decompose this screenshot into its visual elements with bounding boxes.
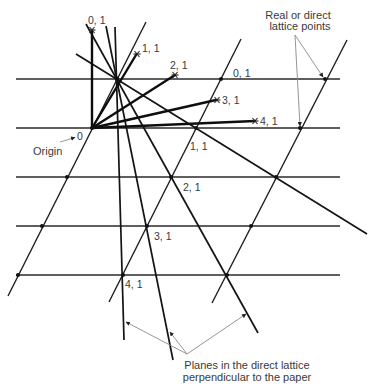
origin-symbol: 0 [77,130,83,142]
lattice-point [121,273,125,277]
lattice-point [145,224,149,228]
lattice-point [323,77,327,81]
star-icon [134,51,141,57]
plane-label-2-1: 2, 1 [183,181,201,193]
vector-2-1 [92,75,175,128]
reciprocal-label-1-1: 1, 1 [142,42,160,54]
planes-arrow-3 [187,314,246,354]
lattice-point [219,77,223,81]
plane-label-4-1: 4, 1 [125,278,143,290]
lattice-point [274,175,278,179]
pointer-arrows [60,35,323,354]
lattice-point [65,175,69,179]
real-lattice-arrow-1 [295,35,323,77]
lattice-point [249,224,253,228]
lattice-point [40,224,44,228]
planes-arrow-1 [126,322,187,354]
real-lattice-arrow-2 [295,35,300,126]
plane-label-1-1: 1, 1 [190,140,208,152]
reciprocal-lattice-diagram: 0, 1 1, 1 2, 1 3, 1 4, 1 0, 1 1, 1 2, 1 … [0,0,376,390]
planes-caption-line1: Planes in the direct lattice [184,359,309,371]
plane-label-0-1: 0, 1 [233,67,251,79]
star-icon [214,97,221,103]
lattice-point [225,273,229,277]
real-lattice-caption-line2: lattice points [269,20,331,32]
reciprocal-label-0-1: 0, 1 [88,14,106,26]
slanted-row-a [8,22,146,296]
reciprocal-label-3-1: 3, 1 [222,94,240,106]
plane-label-3-1: 3, 1 [154,230,172,242]
lattice-point [16,273,20,277]
lattice-point [115,77,120,82]
planes-arrow-2 [170,332,187,354]
lattice-point [90,126,94,130]
lattice-point [169,175,173,179]
origin-caption: Origin [33,145,62,157]
lattice-point [298,126,302,130]
reciprocal-label-2-1: 2, 1 [170,59,188,71]
planes-caption-line2: perpendicular to the paper [183,371,312,383]
origin-arrow [60,138,75,143]
lattice-point [194,126,198,130]
reciprocal-label-4-1: 4, 1 [260,115,278,127]
star-icon [252,118,259,124]
star-icon [172,72,179,78]
